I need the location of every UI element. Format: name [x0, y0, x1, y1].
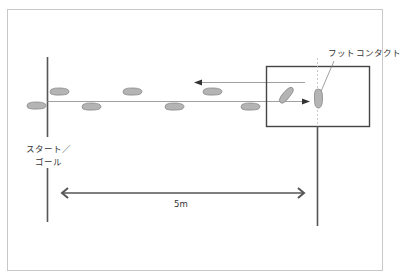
- footprint-icon: [27, 102, 46, 109]
- footprints: [27, 85, 323, 110]
- footprint-icon: [50, 88, 69, 95]
- start-goal-label: スタート／ ゴール: [26, 143, 70, 169]
- footprint-icon: [82, 103, 101, 110]
- footprint-icon: [165, 103, 184, 110]
- distance-label: 5m: [174, 200, 188, 209]
- footprint-icon: [203, 88, 222, 95]
- footprint-icon: [123, 88, 142, 95]
- start-label-line2: ゴール: [26, 156, 70, 169]
- foot-contact-label: フットコンタクト: [328, 49, 402, 58]
- footprint-contact-icon: [314, 89, 322, 108]
- start-label-line1: スタート／: [26, 143, 70, 156]
- footprint-icon: [241, 103, 260, 110]
